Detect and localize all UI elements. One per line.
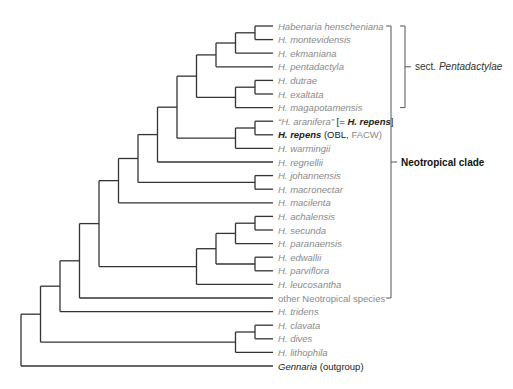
- leaf-label-gennaria: Gennaria (outgroup): [278, 361, 364, 372]
- leaf-label-lithophila: H. lithophila: [278, 347, 328, 358]
- leaf-label-macilenta: H. macilenta: [278, 197, 331, 208]
- leaf-label-johannensis: H. johannensis: [278, 170, 341, 181]
- pentadactylae-label-prefix: sect.: [415, 61, 439, 72]
- leaf-label-part: H. ekmaniana: [278, 48, 337, 59]
- pentadactylae-bracket: [400, 26, 405, 108]
- leaf-label-part: H. dives: [278, 333, 313, 344]
- leaf-label-tridens: H. tridens: [278, 306, 319, 317]
- leaf-label-regnellii: H. regnellii: [278, 157, 324, 168]
- leaf-labels: Habenaria henschenianaH. montevidensisH.…: [278, 21, 393, 372]
- leaf-label-part: (OBL,: [321, 129, 351, 140]
- leaf-label-part: H. clavata: [278, 320, 320, 331]
- leaf-label-magapotamensis: H. magapotamensis: [278, 102, 363, 113]
- leaf-label-henscheniana: Habenaria henscheniana: [278, 21, 384, 32]
- leaf-label-achalensis: H. achalensis: [278, 211, 335, 222]
- leaf-label-part: H. macilenta: [278, 197, 331, 208]
- leaf-label-part: FACW): [351, 129, 382, 140]
- leaf-label-exaltata: H. exaltata: [278, 89, 323, 100]
- leaf-label-part: H. secunda: [278, 225, 326, 236]
- leaf-label-part: H. macronectar: [278, 184, 344, 195]
- tree-branches: [21, 26, 273, 366]
- leaf-label-part: “H. aranifera”: [278, 116, 337, 127]
- leaf-label-part: Gennaria: [278, 361, 317, 372]
- leaf-label-part: H. repens: [278, 129, 321, 140]
- leaf-label-part: H. leucosantha: [278, 279, 341, 290]
- leaf-label-part: H. parviflora: [278, 265, 329, 276]
- leaf-label-secunda: H. secunda: [278, 225, 326, 236]
- leaf-label-part: H. lithophila: [278, 347, 328, 358]
- leaf-label-paranaensis: H. paranaensis: [278, 238, 342, 249]
- leaf-label-dutrae: H. dutrae: [278, 75, 317, 86]
- leaf-label-other: other Neotropical species: [278, 293, 385, 304]
- leaf-label-part: H. magapotamensis: [278, 102, 363, 113]
- neotropical-bracket: [386, 26, 391, 298]
- leaf-label-part: H. regnellii: [278, 157, 324, 168]
- pentadactylae-label: sect. Pentadactylae: [415, 61, 503, 72]
- leaf-label-repens: H. repens (OBL, FACW): [278, 129, 382, 140]
- leaf-label-clavata: H. clavata: [278, 320, 320, 331]
- leaf-label-dives: H. dives: [278, 333, 313, 344]
- leaf-label-parviflora: H. parviflora: [278, 265, 329, 276]
- leaf-label-ekmaniana: H. ekmaniana: [278, 48, 337, 59]
- leaf-label-part: H. warmingii: [278, 143, 331, 154]
- leaf-label-warmingii: H. warmingii: [278, 143, 331, 154]
- leaf-label-part: H. montevidensis: [278, 34, 351, 45]
- neotropical-clade-label: Neotropical clade: [401, 157, 485, 168]
- leaf-label-part: H. achalensis: [278, 211, 335, 222]
- leaf-label-part: H. dutrae: [278, 75, 317, 86]
- leaf-label-montevidensis: H. montevidensis: [278, 34, 351, 45]
- leaf-label-pentadactyla: H. pentadactyla: [278, 61, 344, 72]
- leaf-label-part: [=: [337, 116, 348, 127]
- leaf-label-part: H. exaltata: [278, 89, 323, 100]
- leaf-label-part: H. paranaensis: [278, 238, 342, 249]
- leaf-label-part: H. edwallii: [278, 252, 322, 263]
- leaf-label-part: (outgroup): [317, 361, 363, 372]
- leaf-label-part: H. pentadactyla: [278, 61, 344, 72]
- leaf-label-leucosantha: H. leucosantha: [278, 279, 341, 290]
- leaf-label-macronectar: H. macronectar: [278, 184, 344, 195]
- leaf-label-part: H. repens: [347, 116, 390, 127]
- leaf-label-part: other Neotropical species: [278, 293, 385, 304]
- clade-brackets: sect. Pentadactylae Neotropical clade: [386, 26, 503, 298]
- leaf-label-part: H. tridens: [278, 306, 319, 317]
- leaf-label-edwallii: H. edwallii: [278, 252, 322, 263]
- pentadactylae-label-name: Pentadactylae: [439, 61, 503, 72]
- leaf-label-aranifera: “H. aranifera” [= H. repens]: [278, 116, 393, 127]
- leaf-label-part: H. johannensis: [278, 170, 341, 181]
- leaf-label-part: Habenaria henscheniana: [278, 21, 384, 32]
- phylogenetic-tree: Habenaria henschenianaH. montevidensisH.…: [0, 0, 513, 389]
